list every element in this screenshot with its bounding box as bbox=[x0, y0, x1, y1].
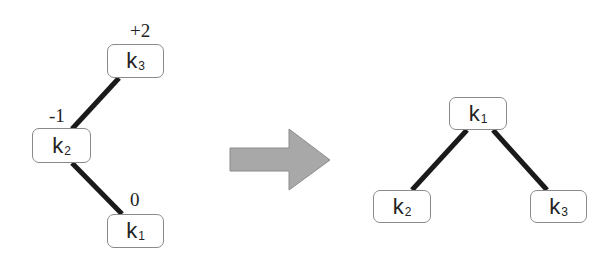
node-label: k bbox=[126, 218, 137, 244]
node-subscript: 1 bbox=[138, 229, 145, 243]
edges-layer bbox=[0, 0, 615, 259]
node-subscript: 2 bbox=[64, 144, 71, 158]
node-label: k bbox=[393, 194, 404, 220]
balance-k1: 0 bbox=[130, 189, 140, 211]
node-k2-right: k2 bbox=[373, 190, 431, 223]
node-subscript: 3 bbox=[561, 205, 568, 219]
edge-k1-k3-right bbox=[493, 130, 547, 190]
node-label: k bbox=[126, 48, 137, 74]
node-k2-left: k2 bbox=[32, 128, 91, 163]
edge-k3-k2 bbox=[72, 78, 119, 129]
node-subscript: 1 bbox=[481, 112, 488, 126]
node-subscript: 3 bbox=[138, 59, 145, 73]
right-arrow-icon bbox=[230, 129, 330, 190]
node-label: k bbox=[549, 194, 560, 220]
node-k3-left: k3 bbox=[107, 44, 164, 78]
node-k1-left: k1 bbox=[107, 214, 164, 248]
node-k3-right: k3 bbox=[530, 190, 587, 223]
node-k1-right: k1 bbox=[449, 97, 507, 130]
node-label: k bbox=[52, 133, 63, 159]
edge-k1-k2-right bbox=[412, 130, 467, 190]
balance-k2: -1 bbox=[49, 105, 65, 127]
edge-k2-k1 bbox=[72, 163, 122, 214]
node-label: k bbox=[469, 101, 480, 127]
balance-k3: +2 bbox=[130, 20, 150, 42]
node-subscript: 2 bbox=[405, 205, 412, 219]
